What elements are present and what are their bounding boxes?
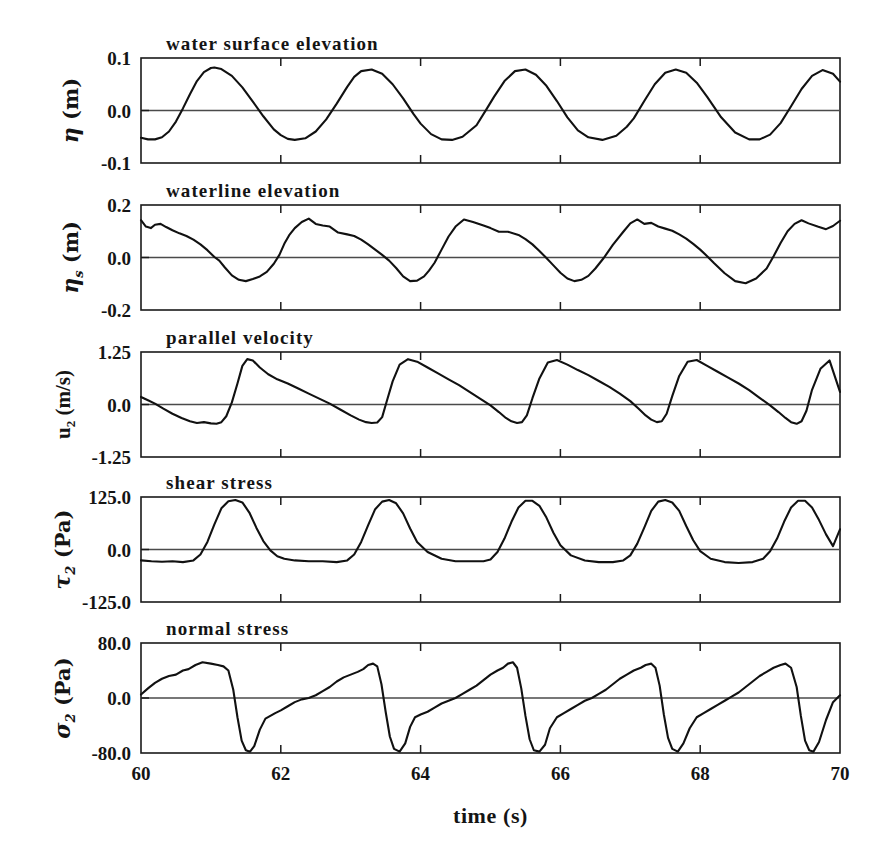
ylabel-3: u2 (m/s): [51, 370, 78, 439]
ylabel-symbol: τ: [49, 574, 75, 589]
ylabel-unit: (m/s): [51, 370, 75, 421]
data-series-3: [141, 359, 840, 424]
ylabel-text-5: σ2 (Pa): [49, 657, 78, 738]
ylabel-text-3: u2 (m/s): [51, 370, 78, 439]
ylabel-text-4: τ2 (Pa): [49, 510, 78, 590]
ytick-label-3-1: 0.0: [107, 395, 131, 416]
xtick-label-3: 66: [551, 763, 570, 784]
ylabel-unit: (Pa): [50, 510, 75, 566]
panel-3: parallel velocity1.250.0-1.25u2 (m/s): [51, 327, 840, 468]
ytick-label-4-1: 0.0: [107, 540, 131, 561]
ytick-label-1-0: 0.1: [107, 48, 131, 69]
ytick-label-2-1: 0.0: [107, 248, 131, 269]
ytick-label-2-2: -0.2: [101, 300, 131, 321]
multi-panel-timeseries-figure: water surface elevation0.10.0-0.1η (m)wa…: [0, 0, 885, 850]
ylabel-subscript: 2: [63, 566, 78, 576]
ytick-label-1-1: 0.0: [107, 101, 131, 122]
panel-title-4: shear stress: [166, 472, 273, 493]
panel-title-5: normal stress: [166, 618, 289, 639]
ytick-label-3-2: -1.25: [91, 447, 131, 468]
ytick-label-5-1: 0.0: [107, 688, 131, 709]
ytick-label-1-2: -0.1: [101, 153, 131, 174]
xtick-label-0: 60: [132, 763, 151, 784]
ylabel-text-2: ηs (m): [57, 221, 86, 294]
panel-2: waterline elevation0.20.0-0.2ηs (m): [57, 180, 840, 321]
ylabel-symbol: η: [57, 278, 83, 294]
ylabel-symbol: u: [51, 427, 75, 439]
ylabel-5: σ2 (Pa): [49, 657, 78, 738]
data-series-2: [141, 219, 840, 284]
xtick-label-5: 70: [831, 763, 850, 784]
figure-canvas: water surface elevation0.10.0-0.1η (m)wa…: [0, 0, 885, 850]
ylabel-1: η (m): [57, 78, 83, 143]
xtick-label-1: 62: [271, 763, 290, 784]
x-axis-title: time (s): [453, 803, 528, 828]
ylabel-subscript: 2: [63, 713, 78, 723]
ytick-label-5-2: -80.0: [91, 743, 131, 764]
xtick-label-4: 68: [691, 763, 710, 784]
panel-5: normal stress80.00.0-80.0σ2 (Pa): [49, 618, 840, 764]
panel-title-2: waterline elevation: [166, 180, 340, 201]
ylabel-text-1: η (m): [57, 78, 83, 143]
panel-4: shear stress125.00.0-125.0τ2 (Pa): [49, 472, 840, 613]
ytick-label-5-0: 80.0: [98, 633, 131, 654]
ylabel-unit: (m): [58, 78, 83, 127]
ylabel-4: τ2 (Pa): [49, 510, 78, 590]
panel-1: water surface elevation0.10.0-0.1η (m): [57, 33, 840, 174]
data-series-1: [141, 67, 840, 139]
ylabel-unit: (Pa): [50, 657, 75, 713]
ytick-label-2-0: 0.2: [107, 195, 131, 216]
x-axis: 606264666870time (s): [132, 763, 850, 828]
panel-title-1: water surface elevation: [166, 33, 379, 54]
ylabel-unit: (m): [58, 221, 83, 270]
ytick-label-3-0: 1.25: [98, 342, 131, 363]
ytick-label-4-0: 125.0: [88, 487, 131, 508]
data-series-5: [141, 662, 840, 751]
ylabel-symbol: η: [57, 127, 83, 143]
xtick-label-2: 64: [411, 763, 431, 784]
data-series-4: [141, 500, 840, 563]
ylabel-2: ηs (m): [57, 221, 86, 294]
ylabel-symbol: σ: [49, 722, 75, 739]
panel-title-3: parallel velocity: [166, 327, 314, 348]
ytick-label-4-2: -125.0: [82, 592, 131, 613]
